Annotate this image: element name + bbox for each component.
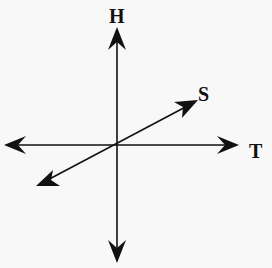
t-axis-label: T	[249, 141, 262, 161]
axes-svg	[0, 0, 272, 268]
s-negative-arrowhead-icon	[36, 170, 60, 186]
axes-diagram: H S T	[0, 0, 272, 268]
s-positive-arrowhead-icon	[174, 100, 198, 118]
h-axis-label: H	[109, 6, 125, 26]
s-axis-label: S	[198, 84, 209, 104]
